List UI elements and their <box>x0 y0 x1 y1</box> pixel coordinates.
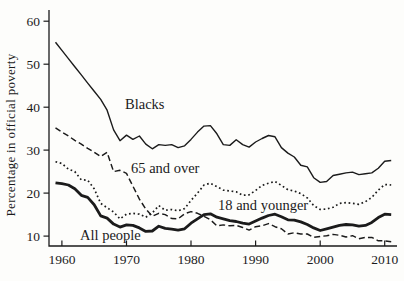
x-tick-label: 1970 <box>113 252 140 267</box>
y-tick-label: 10 <box>27 229 41 244</box>
x-tick-label: 2000 <box>307 252 334 267</box>
series-label-18-and-younger: 18 and younger <box>218 197 308 213</box>
x-tick-label: 1980 <box>178 252 205 267</box>
y-tick-label: 30 <box>27 143 41 158</box>
x-tick-label: 2010 <box>371 252 398 267</box>
x-tick-label: 1990 <box>242 252 269 267</box>
series-label-blacks: Blacks <box>125 96 165 112</box>
y-axis-title: Percentage in official poverty <box>3 53 18 216</box>
series-label-65-and-over: 65 and over <box>131 160 200 176</box>
x-tick-label: 1960 <box>48 252 75 267</box>
series-label-all-people: All people <box>80 227 141 243</box>
y-tick-label: 50 <box>27 57 41 72</box>
series-line-blacks <box>56 42 392 182</box>
y-tick-label: 40 <box>27 100 41 115</box>
y-tick-label: 20 <box>27 186 41 201</box>
poverty-rate-figure: Percentage in official poverty 102030405… <box>0 0 404 281</box>
y-tick-label: 60 <box>27 14 41 29</box>
chart-canvas: Percentage in official poverty 102030405… <box>0 0 404 281</box>
